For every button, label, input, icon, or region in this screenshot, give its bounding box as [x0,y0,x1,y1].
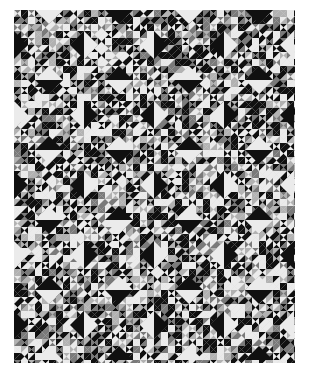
quilt-pattern [14,10,295,363]
quilt-photo [14,10,295,363]
